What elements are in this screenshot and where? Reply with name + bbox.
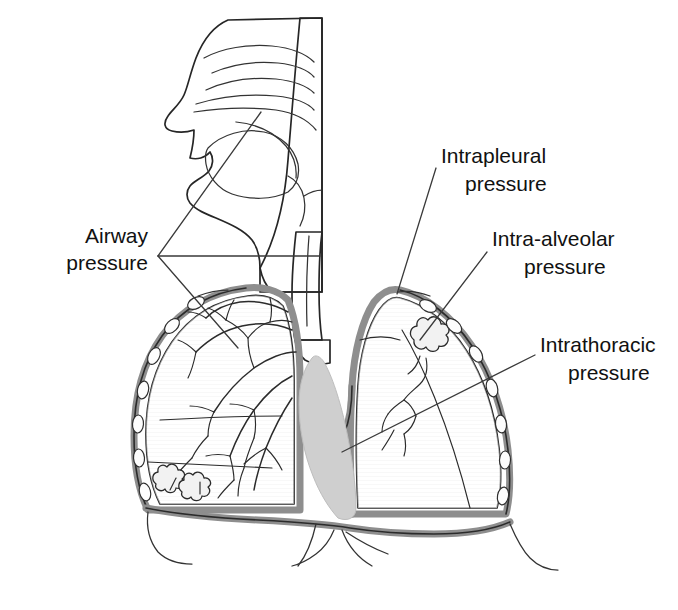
intra-alveolar-pressure-line2: pressure bbox=[524, 255, 606, 278]
diagram-canvas: Airway pressure Intrapleural pressure In… bbox=[0, 0, 678, 610]
intrathoracic-pressure-line2: pressure bbox=[568, 361, 650, 384]
respiratory-pressures-figure: Airway pressure Intrapleural pressure In… bbox=[0, 0, 678, 610]
airway-pressure-line2: pressure bbox=[66, 251, 148, 274]
intrathoracic-pressure-line1: Intrathoracic bbox=[540, 333, 656, 356]
airway-pressure-line1: Airway bbox=[85, 224, 149, 247]
intra-alveolar-pressure-line1: Intra-alveolar bbox=[492, 227, 615, 250]
intrapleural-pressure-line1: Intrapleural bbox=[441, 144, 546, 167]
intrapleural-pressure-line2: pressure bbox=[465, 172, 547, 195]
